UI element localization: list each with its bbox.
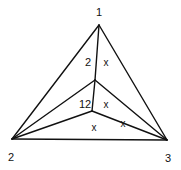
edge-v2-v3 [12, 139, 167, 140]
edge-v3-p [95, 80, 167, 140]
edge-v1-p [95, 25, 99, 80]
x-mark: x [104, 99, 109, 110]
edge-label: 12 [79, 98, 91, 110]
x-mark: x [104, 57, 109, 68]
vertex-label-3: 3 [165, 152, 171, 164]
x-mark: x [92, 122, 97, 133]
vertex-label-2: 2 [8, 151, 14, 163]
edge-label: 2 [85, 56, 91, 68]
edge-v1-v3 [99, 25, 167, 140]
edge-v1-v2 [12, 25, 99, 139]
vertex-label-1: 1 [96, 6, 102, 18]
edge-v3-q [92, 111, 167, 140]
edge-v2-q [12, 111, 92, 139]
edge-p-q [92, 80, 95, 111]
x-mark: x [121, 118, 126, 129]
triangle-diagram: 123212xxxx [0, 0, 181, 170]
